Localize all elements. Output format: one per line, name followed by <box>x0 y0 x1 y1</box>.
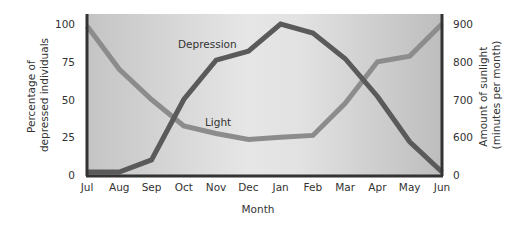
x-tick-label: May <box>399 181 421 193</box>
left-axis-title-line1: Percentage of <box>25 60 37 133</box>
right-axis-title: Amount of sunlight (minutes per month) <box>477 41 502 150</box>
right-tick-label: 900 <box>453 18 473 30</box>
right-axis-title-line1: Amount of sunlight <box>477 47 489 147</box>
left-tick-label: 50 <box>62 94 75 106</box>
left-tick-label: 0 <box>68 169 75 181</box>
x-tick-label: Feb <box>304 181 323 193</box>
x-tick-label: Jun <box>433 181 450 193</box>
right-tick-label: 0 <box>453 169 460 181</box>
left-axis-ticks: 0255075100 <box>55 18 75 181</box>
right-axis-title-line2: (minutes per month) <box>490 41 502 150</box>
right-axis-ticks: 0600700800900 <box>453 18 473 181</box>
right-tick-label: 600 <box>453 131 473 143</box>
x-tick-label: Aug <box>109 181 130 193</box>
light-label: Light <box>205 116 231 128</box>
x-axis-title: Month <box>242 203 275 215</box>
x-axis-ticks: JulAugSepOctNovDecJanFebMarAprMayJun <box>80 181 451 193</box>
x-tick-label: Nov <box>206 181 227 193</box>
x-tick-label: Oct <box>175 181 193 193</box>
left-tick-label: 75 <box>62 56 75 68</box>
x-tick-label: Dec <box>238 181 259 193</box>
x-tick-label: Mar <box>335 181 355 193</box>
left-axis-title: Percentage of depressed individuals <box>25 38 50 152</box>
right-tick-label: 700 <box>453 94 473 106</box>
left-tick-label: 100 <box>55 18 75 30</box>
depression-label: Depression <box>178 38 237 50</box>
right-tick-label: 800 <box>453 56 473 68</box>
line-chart: 0255075100 0600700800900 JulAugSepOctNov… <box>0 0 518 230</box>
x-tick-label: Jan <box>272 181 289 193</box>
x-tick-label: Sep <box>142 181 162 193</box>
left-tick-label: 25 <box>62 131 75 143</box>
x-tick-label: Jul <box>80 181 94 193</box>
x-tick-label: Apr <box>368 181 387 193</box>
left-axis-title-line2: depressed individuals <box>38 38 50 152</box>
